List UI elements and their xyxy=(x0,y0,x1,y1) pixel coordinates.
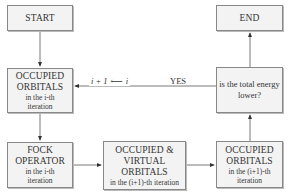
occupied-orbitals-i-node: OCCUPIED ORBITALS in the i-th iteration xyxy=(7,68,73,113)
fock-sub2: iteration xyxy=(28,176,53,185)
occ-i-sub2: iteration xyxy=(28,102,53,111)
start-label: START xyxy=(25,13,54,24)
occ-i1-title1: OCCUPIED xyxy=(225,145,273,156)
increment-right-text: i xyxy=(126,76,128,86)
decision-line2: lower? xyxy=(238,90,261,101)
start-node: START xyxy=(7,5,73,31)
fock-operator-node: FOCK OPERATOR in the i-th iteration xyxy=(7,142,73,188)
occupied-virtual-orbitals-node: OCCUPIED & VIRTUAL ORBITALS in the (i+1)… xyxy=(103,141,186,190)
occ-i-sub1: in the i-th xyxy=(25,93,54,102)
yes-label: YES xyxy=(170,76,186,86)
end-node: END xyxy=(216,5,283,31)
occvirt-sub1: in the (i+1)-th iteration xyxy=(110,178,179,187)
occ-i1-sub2: iteration xyxy=(237,176,262,185)
occ-i-title1: OCCUPIED xyxy=(16,71,64,82)
occvirt-title2: VIRTUAL xyxy=(124,156,166,167)
fock-sub1: in the i-th xyxy=(25,167,54,176)
increment-left-text: i + 1 xyxy=(91,76,108,86)
occvirt-title3: ORBITALS xyxy=(121,167,168,178)
occvirt-title1: OCCUPIED & xyxy=(115,145,173,156)
left-arrow-icon: ⟵ xyxy=(111,76,123,86)
end-label: END xyxy=(240,13,260,24)
increment-label: i + 1 ⟵ i xyxy=(89,76,130,86)
energy-decision-node: is the total energy lower? xyxy=(216,67,283,113)
fock-title2: OPERATOR xyxy=(15,156,65,167)
occ-i1-title2: ORBITALS xyxy=(226,156,273,167)
occ-i-title2: ORBITALS xyxy=(17,82,64,93)
fock-title1: FOCK xyxy=(27,145,53,156)
decision-line1: is the total energy xyxy=(219,79,280,90)
occupied-orbitals-i1-node: OCCUPIED ORBITALS in the (i+1)-th iterat… xyxy=(216,141,283,188)
occ-i1-sub1: in the (i+1)-th xyxy=(228,167,270,176)
